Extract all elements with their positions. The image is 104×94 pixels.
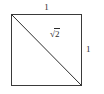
right-side-length-label: 1 — [86, 45, 91, 54]
radicand-value: 2 — [54, 28, 60, 39]
top-side-length-label: 1 — [0, 3, 93, 12]
geometry-figure: 1 1 √2 — [0, 0, 104, 94]
diagonal-length-label: √2 — [50, 30, 60, 39]
square-root-expression: √2 — [50, 30, 60, 39]
